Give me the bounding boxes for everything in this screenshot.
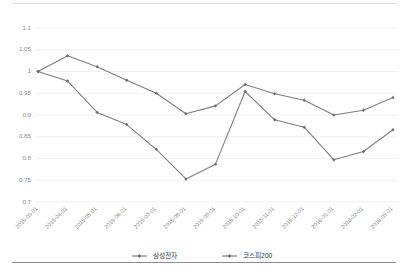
bottom-divider [12, 262, 396, 263]
series-markers-group [36, 54, 394, 181]
x-axis-tick-labels: 2015-03-012015-04-012015-05-012015-06-01… [14, 205, 393, 229]
x-tick-label: 2016-01-01 [310, 205, 334, 229]
legend-label-1[interactable]: 삼성전자 [153, 251, 178, 260]
data-point-marker [95, 65, 98, 68]
x-tick-label: 2016-03-01 [369, 205, 393, 229]
data-point-marker [273, 92, 276, 95]
legend-marker-2 [228, 254, 232, 258]
legend-label-2[interactable]: 코스피200 [243, 251, 273, 260]
data-point-marker [391, 96, 394, 99]
line-chart: 1.11.0510.950.90.850.80.750.7 2015-03-01… [0, 0, 407, 280]
legend-marker-1 [138, 254, 142, 258]
x-tick-label: 2015-07-01 [133, 205, 157, 229]
y-tick-label: 1.1 [22, 24, 31, 31]
x-tick-label: 2015-09-01 [192, 205, 216, 229]
y-tick-label: 1 [28, 67, 32, 74]
x-tick-label: 2015-12-01 [280, 205, 304, 229]
x-tick-label: 2015-10-01 [221, 205, 245, 229]
y-tick-label: 1.05 [19, 45, 32, 52]
chart-figure: 1.11.0510.950.90.850.80.750.7 2015-03-01… [0, 0, 407, 280]
chart-legend: 삼성전자코스피200 [132, 251, 273, 260]
x-tick-label: 2015-03-01 [14, 205, 38, 229]
x-tick-label: 2015-04-01 [44, 205, 68, 229]
y-tick-label: 0.85 [19, 132, 32, 139]
series-lines-group [38, 56, 393, 179]
y-tick-label: 0.75 [19, 176, 32, 183]
y-tick-label: 0.7 [22, 198, 31, 205]
x-tick-label: 2016-02-01 [340, 205, 364, 229]
x-tick-label: 2015-06-01 [103, 205, 127, 229]
y-tick-label: 0.8 [22, 154, 31, 161]
y-tick-label: 0.9 [22, 111, 31, 118]
x-tick-label: 2015-11-01 [251, 205, 275, 229]
gridlines-group [36, 28, 397, 202]
data-point-marker [362, 109, 365, 112]
y-axis-tick-labels: 1.11.0510.950.90.850.80.750.7 [19, 24, 32, 205]
data-point-marker [125, 79, 128, 82]
y-tick-label: 0.95 [19, 89, 32, 96]
x-tick-label: 2015-08-01 [162, 205, 186, 229]
x-tick-label: 2015-05-01 [73, 205, 97, 229]
